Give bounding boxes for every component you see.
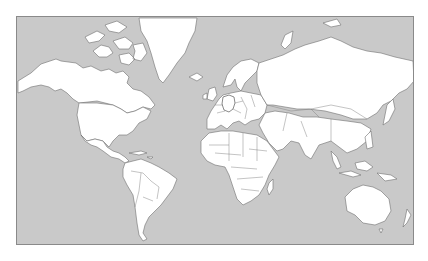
iceland	[189, 73, 203, 81]
africa-land	[201, 131, 279, 205]
world-map: World map	[16, 16, 414, 245]
british-isles	[203, 87, 217, 101]
arctic-islands	[85, 21, 147, 65]
usa	[77, 103, 151, 147]
europe	[189, 59, 267, 129]
scandinavia	[223, 59, 259, 91]
new-zealand	[403, 209, 411, 227]
north-america	[18, 18, 197, 163]
caribbean	[129, 151, 153, 159]
map-svg	[17, 17, 414, 245]
asia	[257, 19, 414, 181]
madagascar	[267, 179, 273, 195]
oceania	[345, 185, 411, 233]
australia	[345, 185, 391, 225]
africa	[201, 131, 279, 205]
tasmania	[379, 229, 383, 233]
south-america	[123, 159, 177, 241]
greenland	[139, 18, 197, 83]
